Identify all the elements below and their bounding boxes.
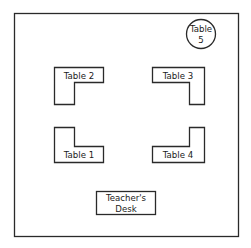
classroom-layout-diagram: Table 5 Table 2 Table 3 Table 1 Table 4 … <box>0 0 251 248</box>
table-1-label: Table 1 <box>63 150 94 160</box>
table-4-label: Table 4 <box>162 150 193 160</box>
teacher-desk: Teacher's Desk <box>97 192 156 215</box>
table-5-round: Table 5 <box>187 20 216 49</box>
table-5-label-line1: Table <box>189 24 212 34</box>
table-3-label: Table 3 <box>162 71 193 81</box>
teacher-desk-label-line2: Desk <box>115 204 136 214</box>
table-2-label: Table 2 <box>63 71 94 81</box>
table-5-label-line2: 5 <box>198 35 203 45</box>
teacher-desk-label-line1: Teacher's <box>105 193 147 203</box>
